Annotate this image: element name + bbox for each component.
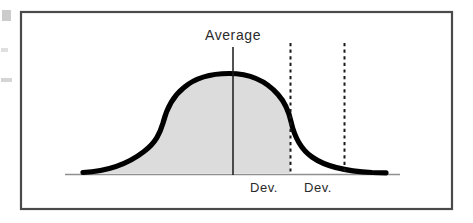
distribution-figure: Average Dev. Dev. [0, 0, 473, 223]
average-label: Average [0, 27, 466, 43]
deviation-label-1: Dev. [250, 180, 278, 195]
deviation-label-2: Dev. [304, 180, 332, 195]
distribution-fill-area [84, 74, 290, 173]
